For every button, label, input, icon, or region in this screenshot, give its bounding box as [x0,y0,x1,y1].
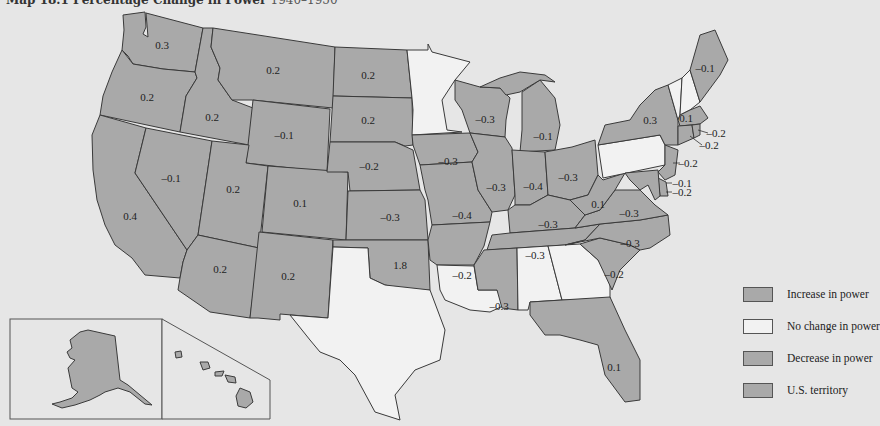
label-nebraska: –0.2 [358,160,378,172]
label-nevada: –0.1 [160,172,180,184]
label-new-mexico: 0.2 [281,270,295,282]
label-new-york: 0.3 [643,114,657,126]
label-connecticut: –0.2 [698,139,718,151]
label-indiana: –0.4 [522,180,543,192]
label-oregon: 0.2 [140,91,154,103]
label-illinois: –0.3 [485,181,506,193]
state-indiana[interactable] [512,150,548,205]
legend-item-decrease: Decrease in power [743,342,880,374]
label-mississippi: –0.3 [488,300,509,312]
label-oklahoma: 1.8 [393,259,407,271]
state-new-york[interactable] [598,85,678,145]
label-florida: 0.1 [607,361,621,373]
label-south-dakota: 0.2 [361,114,375,126]
label-maryland: –0.2 [671,186,691,198]
label-idaho: 0.2 [205,111,219,123]
label-iowa: –0.3 [437,155,458,167]
state-connecticut[interactable] [678,125,694,145]
label-utah: 0.2 [226,183,240,195]
state-rhode-island[interactable] [692,124,700,138]
label-kentucky: –0.3 [537,218,558,230]
label-maine: –0.1 [694,62,714,74]
label-arizona: 0.2 [213,263,227,275]
label-north-carolina: –0.3 [619,237,640,249]
swatch-decrease [743,351,773,366]
swatch-territory [743,383,773,398]
label-rhode-island: –0.2 [705,127,725,139]
label-south-carolina: –0.2 [603,268,623,280]
legend: Increase in power No change in power Dec… [743,278,880,406]
legend-item-territory: U.S. territory [743,374,880,406]
label-west-virginia: 0.1 [591,198,605,210]
label-north-dakota: 0.2 [361,69,375,81]
label-kansas: –0.3 [379,211,400,223]
legend-label: U.S. territory [787,384,848,396]
label-arkansas: –0.2 [451,269,471,281]
label-massachusetts: 0.1 [679,112,693,124]
label-tennessee: –0.3 [524,249,545,261]
label-virginia: –0.3 [618,207,639,219]
label-ohio: –0.3 [557,171,578,183]
label-montana: 0.2 [266,64,280,76]
legend-label: Decrease in power [787,352,873,364]
legend-label: No change in power [787,320,880,332]
label-wyoming: –0.1 [273,129,293,141]
legend-item-no-change: No change in power [743,310,880,342]
label-missouri: –0.4 [451,209,472,221]
label-new-jersey: –0.2 [677,157,697,169]
label-michigan: –0.1 [532,130,552,142]
state-arizona[interactable] [178,235,259,318]
label-colorado: 0.1 [293,197,307,209]
label-washington: 0.3 [155,39,169,51]
label-california: 0.4 [123,210,137,222]
legend-item-increase: Increase in power [743,278,880,310]
state-florida[interactable] [530,297,640,402]
legend-label: Increase in power [787,288,869,300]
swatch-increase [743,287,773,302]
inset-alaska-hawaii [10,319,270,419]
label-wisconsin: –0.3 [474,113,495,125]
swatch-no-change [743,319,773,334]
